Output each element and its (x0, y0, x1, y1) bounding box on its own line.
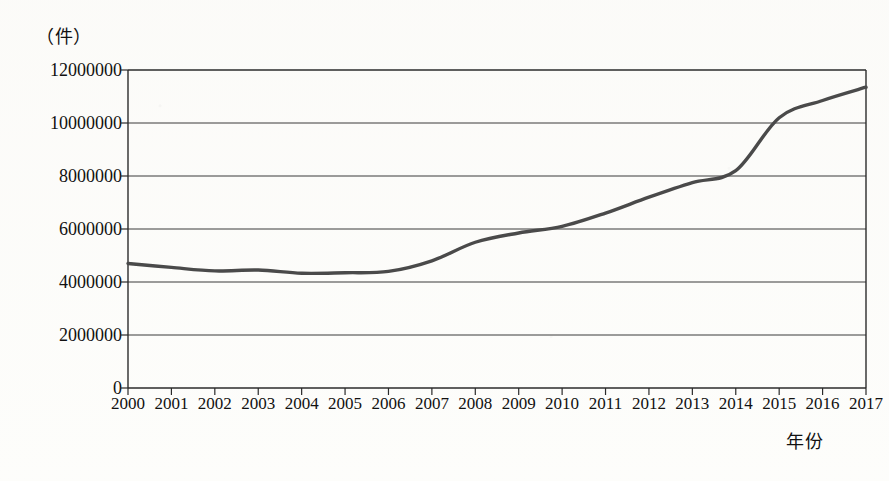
x-tick-label-2017: 2017 (836, 393, 889, 415)
chart-container: （件） 12000000 10000000 8000000 6000000 40… (0, 0, 889, 481)
gridlines (128, 123, 866, 335)
x-axis-title: 年份 (786, 427, 824, 453)
x-axis-tick-labels: 2000200120022003200420052006200720082009… (0, 393, 889, 419)
y-axis-ticks (120, 70, 128, 388)
data-series-line (128, 87, 866, 273)
